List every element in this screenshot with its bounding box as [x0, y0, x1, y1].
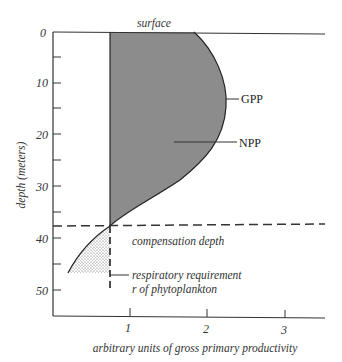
- y-tick-10: 10: [36, 76, 48, 90]
- respiration-label-line1: respiratory requirement: [132, 269, 242, 282]
- y-tick-40: 40: [36, 232, 48, 246]
- y-tick-0: 0: [40, 26, 46, 40]
- x-tick-1: 1: [125, 321, 131, 335]
- npp-label: NPP: [239, 136, 261, 150]
- respiration-deficit-area: [68, 226, 110, 273]
- y-tick-50: 50: [36, 284, 48, 298]
- y-ticks: [53, 57, 61, 290]
- productivity-depth-chart: 0 10 20 30 40 50 1 2 3 arbitrary units o…: [0, 0, 342, 362]
- compensation-depth-label: compensation depth: [132, 235, 225, 248]
- x-axis: [53, 316, 325, 318]
- y-tick-20: 20: [36, 128, 48, 142]
- npp-area: [110, 32, 226, 226]
- x-tick-2: 2: [203, 322, 209, 336]
- x-axis-title: arbitrary units of gross primary product…: [93, 342, 298, 355]
- gpp-label: GPP: [241, 92, 263, 106]
- x-tick-3: 3: [280, 323, 287, 337]
- respiration-label-line2: r of phytoplankton: [132, 283, 217, 296]
- y-tick-30: 30: [35, 180, 48, 194]
- surface-label: surface: [137, 17, 171, 30]
- compensation-depth-line: [53, 224, 325, 226]
- y-axis-title: depth (meters): [15, 141, 28, 208]
